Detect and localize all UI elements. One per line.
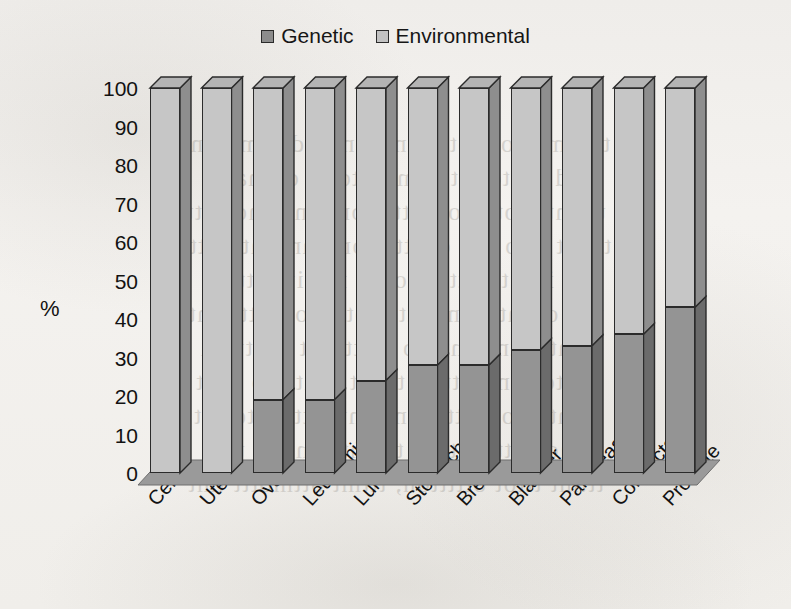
bar-3d-faces-cervix bbox=[0, 0, 791, 609]
bar-column-cervix[interactable] bbox=[0, 0, 791, 609]
legend-item-environmental: Environmental bbox=[376, 24, 530, 48]
legend-swatch-environmental-icon bbox=[376, 30, 389, 43]
chart-legend: Genetic Environmental bbox=[0, 24, 791, 48]
legend-item-genetic: Genetic bbox=[261, 24, 353, 48]
legend-label-environmental: Environmental bbox=[396, 24, 530, 48]
bar-segment-environmental[interactable] bbox=[150, 88, 180, 473]
bar-side-face-environmental bbox=[180, 77, 191, 473]
scanned-chart-page: ttnomtutom ottammiton ta dtermatontind t… bbox=[0, 0, 791, 609]
legend-label-genetic: Genetic bbox=[281, 24, 353, 48]
chart-plot-area bbox=[0, 0, 791, 609]
legend-swatch-genetic-icon bbox=[261, 30, 274, 43]
